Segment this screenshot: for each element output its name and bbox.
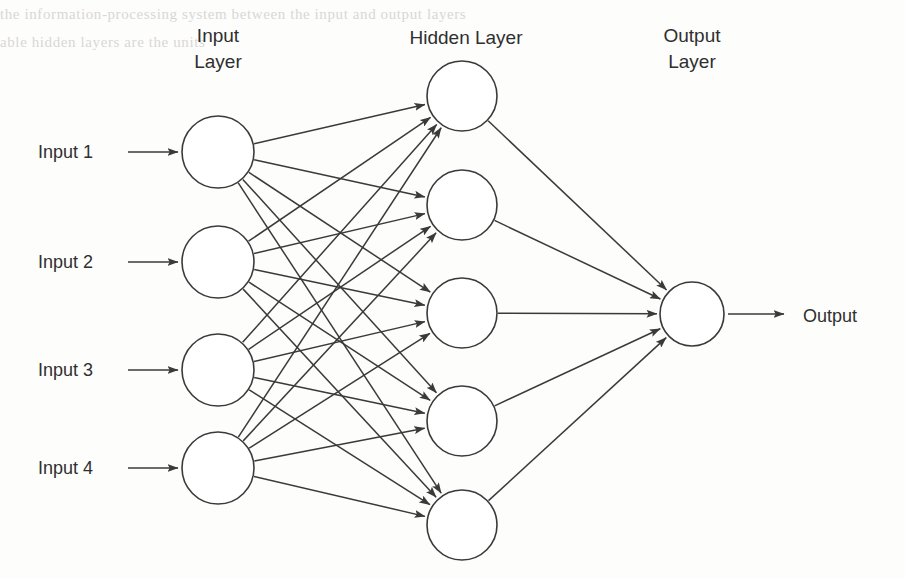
input-layer-node-2[interactable]: [182, 226, 254, 298]
output-layer-title-line2: Layer: [668, 51, 716, 72]
edge-input-4-hidden-3: [249, 333, 430, 448]
hidden-layer-node-2[interactable]: [427, 170, 497, 240]
hidden-layer-title: Hidden Layer: [409, 27, 523, 48]
input-layer-node-3[interactable]: [182, 334, 254, 406]
output-layer-title-line1: Output: [663, 25, 721, 46]
input-label-1: Input 1: [38, 142, 93, 162]
edge-hidden-4-output: [495, 329, 661, 406]
input-label-2: Input 2: [38, 252, 93, 272]
edge-hidden-1-output: [488, 121, 666, 290]
network-graph: InputLayerHidden LayerOutputLayerInput 1…: [0, 0, 905, 579]
edge-hidden-5-output: [489, 338, 667, 501]
edge-input-2-hidden-5: [243, 289, 436, 497]
edge-input-2-hidden-1: [249, 117, 431, 241]
input-to-hidden-edges: [238, 105, 441, 517]
edge-input-3-hidden-5: [249, 390, 430, 505]
neural-network-diagram-page: the information-processing system betwee…: [0, 0, 905, 579]
edge-input-4-hidden-5: [254, 476, 425, 516]
edge-input-3-hidden-2: [249, 226, 431, 349]
hidden-layer-node-1[interactable]: [427, 61, 497, 131]
edge-input-3-hidden-4: [254, 378, 425, 414]
output-layer-nodes: [660, 282, 724, 346]
input-layer-node-1[interactable]: [182, 116, 254, 188]
hidden-layer-nodes: [427, 61, 497, 560]
output-label: Output: [803, 306, 857, 326]
hidden-layer-node-3[interactable]: [427, 278, 497, 348]
hidden-layer-node-5[interactable]: [427, 490, 497, 560]
input-layer-nodes: [182, 116, 254, 504]
input-label-4: Input 4: [38, 458, 93, 478]
edge-input-1-hidden-4: [243, 179, 437, 392]
hidden-layer-node-4[interactable]: [427, 386, 497, 456]
edge-hidden-3-output: [498, 313, 657, 314]
input-layer-title-line1: Input: [197, 25, 240, 46]
hidden-to-output-edges: [488, 121, 666, 501]
edge-input-4-hidden-4: [254, 428, 424, 461]
input-layer-title-line2: Layer: [194, 51, 242, 72]
output-layer-node-1[interactable]: [660, 282, 724, 346]
input-label-3: Input 3: [38, 360, 93, 380]
input-layer-node-4[interactable]: [182, 432, 254, 504]
input-feed-arrows: [128, 152, 178, 468]
